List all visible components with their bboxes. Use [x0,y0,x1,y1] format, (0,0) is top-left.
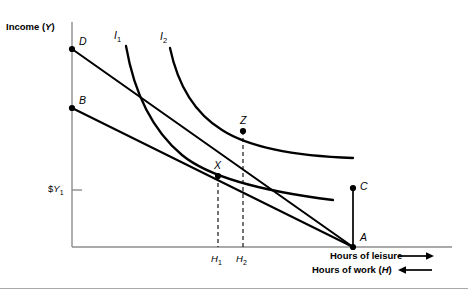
y-axis-title: Income (Y) [6,22,55,32]
x-tick-label-h2: H2 [236,254,247,266]
indifference-curve-i2 [170,48,353,158]
point-marker-D [69,46,75,52]
point-marker-X [215,173,221,179]
point-label-X: X [214,160,221,171]
right-arrow-icon [398,252,434,260]
point-label-B: B [79,95,86,106]
bottom-divider [0,288,468,289]
labor-leisure-diagram: Income (Y) Hours of leisure Hours of wor… [0,0,468,297]
y-tick-label-y1: $Y1 [48,184,64,196]
budget-line-BA [72,108,353,247]
budget-line-DA [72,49,353,247]
curve-label-i1: I1 [114,30,121,44]
x-axis-title-work: Hours of work (H) [312,265,392,275]
point-label-C: C [360,181,368,192]
point-label-Z: Z [240,115,246,126]
point-marker-B [69,105,75,111]
x-tick-label-h1: H1 [211,254,222,266]
point-label-D: D [79,36,87,47]
point-marker-C [350,185,356,191]
point-marker-Z [240,128,246,134]
curve-label-i2: I2 [160,31,167,45]
x-axis-title-leisure: Hours of leisure [330,251,402,261]
point-label-A: A [360,232,367,243]
indifference-curve-i1 [126,46,333,200]
left-arrow-icon [398,266,432,274]
